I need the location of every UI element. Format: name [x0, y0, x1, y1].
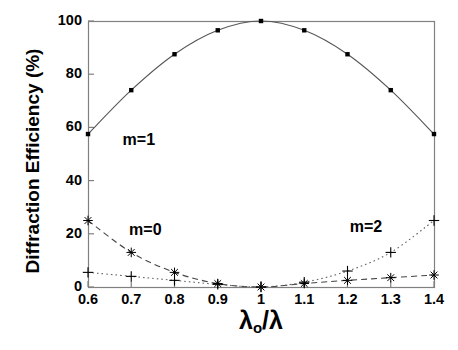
x-tick-label-1.2: 1.2: [326, 291, 370, 307]
data-point: [345, 52, 349, 56]
x-tick-label-1.3: 1.3: [369, 291, 413, 307]
data-point: [432, 132, 436, 136]
x-axis-label: λo/λ: [88, 306, 434, 336]
y-tick-label-80: 80: [42, 65, 82, 81]
data-point: [129, 88, 133, 92]
data-point: [389, 88, 393, 92]
series-label-m-0: m=0: [129, 221, 161, 239]
x-axis-label-subscript: o: [253, 319, 262, 336]
x-axis-label-lambda: λ: [239, 306, 253, 334]
x-tick-label-0.8: 0.8: [153, 291, 197, 307]
data-point: [86, 132, 90, 136]
series-label-m-1: m=1: [123, 131, 155, 149]
x-tick-label-0.9: 0.9: [196, 291, 240, 307]
data-point: [259, 19, 263, 23]
y-tick-label-60: 60: [42, 118, 82, 134]
y-tick-label-0: 0: [42, 278, 82, 294]
data-point: [172, 52, 176, 56]
chart-figure: Diffraction Efficiency (%) λo/λ 0.60.70.…: [0, 0, 458, 350]
x-tick-label-1: 1: [239, 291, 283, 307]
x-tick-label-1.1: 1.1: [282, 291, 326, 307]
data-point: [216, 28, 220, 32]
series-label-m-2: m=2: [350, 218, 382, 236]
data-point: [302, 28, 306, 32]
plot-frame: [89, 22, 435, 288]
series-line-m-1: [88, 21, 434, 134]
y-tick-label-40: 40: [42, 172, 82, 188]
x-axis-label-tail: /λ: [262, 306, 283, 334]
x-tick-label-0.7: 0.7: [109, 291, 153, 307]
y-tick-label-20: 20: [42, 225, 82, 241]
series-m-1: [86, 19, 436, 136]
y-axis-label: Diffraction Efficiency (%): [22, 11, 44, 311]
x-tick-label-1.4: 1.4: [412, 291, 456, 307]
y-tick-label-100: 100: [42, 12, 82, 28]
